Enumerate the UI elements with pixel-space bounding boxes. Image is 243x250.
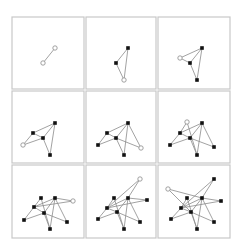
graph-node <box>212 145 216 149</box>
graph-node <box>200 46 204 50</box>
graph-node <box>195 227 199 231</box>
new-node-hollow <box>122 78 126 82</box>
graph-panel-4 <box>12 91 84 163</box>
graph-node <box>200 121 204 125</box>
graph-node <box>48 227 52 231</box>
graph-node <box>39 196 43 200</box>
new-node-hollow <box>21 143 25 147</box>
graph-panel-9 <box>158 165 230 238</box>
new-node-hollow <box>139 146 143 150</box>
graph-node <box>122 227 126 231</box>
graph-node <box>22 218 26 222</box>
new-node-hollow <box>166 187 170 191</box>
graph-node <box>114 136 118 140</box>
graph-node <box>42 211 46 215</box>
graph-panel-8 <box>86 165 156 238</box>
graph-panel-7 <box>12 165 84 238</box>
new-node-hollow <box>185 120 189 124</box>
graph-node <box>65 220 69 224</box>
graph-node <box>195 153 199 157</box>
graph-node <box>96 217 100 221</box>
new-node-hollow <box>178 56 182 60</box>
graph-panel-3 <box>158 17 230 89</box>
new-node-hollow <box>41 61 45 65</box>
graph-node <box>179 206 183 210</box>
graph-node <box>212 220 216 224</box>
panel-frame <box>86 91 156 163</box>
graph-node <box>53 121 57 125</box>
graph-node <box>126 121 130 125</box>
graph-node <box>105 206 109 210</box>
new-node-hollow <box>53 46 57 50</box>
graph-node <box>31 131 35 135</box>
graph-node <box>212 177 216 181</box>
graph-growth-grid <box>0 0 243 250</box>
graph-node <box>188 136 192 140</box>
graph-panel-6 <box>158 91 230 163</box>
graph-node <box>178 131 182 135</box>
graph-node <box>188 61 192 65</box>
graph-node <box>32 205 36 209</box>
graph-node <box>41 136 45 140</box>
graph-node <box>122 153 126 157</box>
new-node-hollow <box>71 199 75 203</box>
graph-node <box>126 196 130 200</box>
new-node-hollow <box>138 177 142 181</box>
graph-node <box>53 196 57 200</box>
graph-node <box>112 196 116 200</box>
graph-panel-1 <box>12 17 84 89</box>
graph-node <box>189 210 193 214</box>
graph-node <box>126 46 130 50</box>
graph-node <box>185 196 189 200</box>
graph-node <box>105 131 109 135</box>
graph-node <box>200 196 204 200</box>
graph-node <box>195 78 199 82</box>
graph-panel-5 <box>86 91 156 163</box>
graph-panel-2 <box>86 17 156 89</box>
panel-frame <box>12 17 84 89</box>
panel-frame <box>86 17 156 89</box>
graph-node <box>48 153 52 157</box>
panel-frame <box>12 91 84 163</box>
graph-node <box>219 199 223 203</box>
graph-node <box>169 217 173 221</box>
graph-node <box>145 198 149 202</box>
graph-node <box>96 143 100 147</box>
panel-frame <box>158 17 230 89</box>
graph-node <box>168 143 172 147</box>
graph-node <box>138 220 142 224</box>
graph-node <box>115 210 119 214</box>
graph-node <box>114 61 118 65</box>
